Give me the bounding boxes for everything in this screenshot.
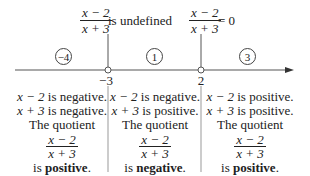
sign-line-1: x − 2 is positive. [204,90,296,104]
quotient-label: The quotient [204,118,296,132]
sign-line-2: x + 3 is positive. [109,104,201,118]
quotient-label: The quotient [109,118,201,132]
quotient-fraction: x − 2 x + 3 [46,133,78,160]
quotient-label: The quotient [16,118,108,132]
interval-column-2: x − 2 is negative. x + 3 is positive. Th… [109,90,201,175]
interval-column-1: x − 2 is negative. x + 3 is negative. Th… [16,90,108,175]
fraction-denominator: x + 3 [80,21,112,35]
top-label-fraction-2: x − 2 x + 3 [189,6,221,35]
sign-line-2: x + 3 is positive. [204,104,296,118]
top-label-text-2: = 0 [218,14,235,27]
sign-line-1: x − 2 is negative. [109,90,201,104]
result-sign: positive [45,160,88,175]
arrow-right-icon [285,67,294,73]
fraction-numerator: x − 2 [80,6,112,21]
sign-line-2: x + 3 is negative. [16,104,108,118]
quotient-fraction: x − 2 x + 3 [139,133,171,160]
sign-line-1: x − 2 is negative. [16,90,108,104]
top-label-text-1: is undefined [108,14,172,27]
fraction-numerator: x − 2 [189,6,221,21]
result-sign: negative [136,160,182,175]
tick-label-2: 2 [191,74,211,87]
quotient-fraction: x − 2 x + 3 [234,133,266,160]
fraction-denominator: x + 3 [189,21,221,35]
result-line: is negative. [109,161,201,175]
top-label-fraction-1: x − 2 x + 3 [80,6,112,35]
result-line: is positive. [16,161,108,175]
test-value-circle-1: −4 [55,48,72,65]
test-value-circle-3: 3 [239,48,256,65]
tick-label-minus3: −3 [96,74,116,87]
result-line: is positive. [204,161,296,175]
result-sign: positive [233,160,276,175]
interval-column-3: x − 2 is positive. x + 3 is positive. Th… [204,90,296,175]
test-value-circle-2: 1 [146,48,163,65]
